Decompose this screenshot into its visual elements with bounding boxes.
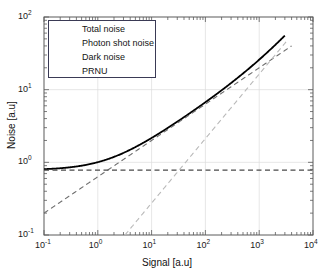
ytick-label: 100 — [18, 157, 32, 166]
noise-vs-signal-chart: 10-1 100 101 102 103 104 10-1 100 101 10… — [0, 0, 334, 278]
xtick-label: 104 — [304, 241, 318, 250]
legend-entry: Dark noise — [49, 51, 157, 64]
xtick-label: 10-1 — [35, 241, 51, 250]
ytick-label: 10-1 — [18, 230, 34, 239]
xtick-label: 102 — [196, 241, 210, 250]
legend-entry: PRNU — [49, 65, 157, 78]
ytick-label: 101 — [18, 85, 32, 94]
legend-label-prnu: PRNU — [82, 65, 108, 78]
xtick-label: 103 — [250, 241, 264, 250]
legend-label-total-noise: Total noise — [82, 23, 125, 36]
legend-entry: Photon shot noise — [49, 37, 157, 50]
ytick-label: 102 — [18, 12, 32, 21]
legend-label-photon-shot-noise: Photon shot noise — [82, 37, 154, 50]
xtick-label: 100 — [89, 241, 103, 250]
legend-label-dark-noise: Dark noise — [82, 51, 125, 64]
y-axis-title: Noise [a.u] — [7, 80, 17, 170]
x-axis-title: Signal [a.u] — [0, 258, 334, 268]
chart-legend: Total noise Photon shot noise Dark noise… — [48, 20, 156, 78]
xtick-label: 101 — [143, 241, 157, 250]
legend-entry: Total noise — [49, 23, 157, 36]
